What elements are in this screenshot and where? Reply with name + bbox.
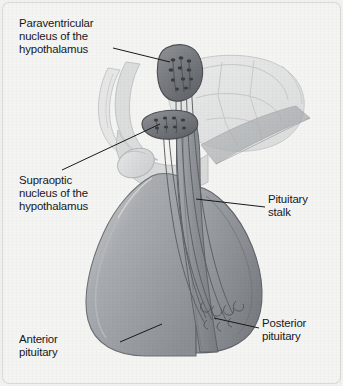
label-pituitary-stalk: Pituitary stalk — [268, 193, 340, 219]
paraventricular-nucleus[interactable] — [157, 45, 202, 102]
label-posterior-pituitary: Posterior pituitary — [262, 317, 342, 343]
corpus-callosum-outline — [98, 62, 158, 160]
supraoptic-nucleus[interactable] — [142, 110, 198, 139]
figure-root: Paraventricular nucleus of the hypothala… — [0, 0, 343, 386]
label-supraoptic-nucleus: Supraoptic nucleus of the hypothalamus — [19, 174, 143, 214]
label-anterior-pituitary: Anterior pituitary — [19, 333, 129, 359]
label-paraventricular-nucleus: Paraventricular nucleus of the hypothala… — [19, 17, 143, 57]
